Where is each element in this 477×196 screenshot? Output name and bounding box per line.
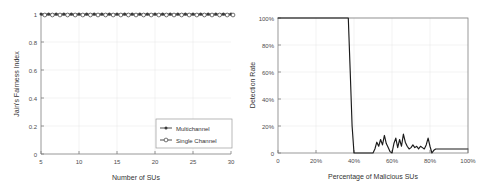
fairness-ytick-label-0: 0 <box>34 152 38 158</box>
detection-xtick-label-5: 100% <box>460 158 476 164</box>
open-circle-icon <box>164 138 168 142</box>
fairness-xlabel: Number of SUs <box>112 174 160 181</box>
detection-plot-panel: 100% 80% 60% 40% 20% 0 0 20% 40% 60% 80%… <box>240 0 477 196</box>
fairness-ytick-label-4: 0.8 <box>29 40 38 46</box>
detection-ytick-label-0: 0 <box>271 151 275 157</box>
fairness-x-ticks <box>41 151 231 154</box>
detection-ylabel: Detection Rate <box>249 62 256 108</box>
fairness-ylabel: Jain's Fairness Index <box>13 51 20 117</box>
detection-grid-horizontal <box>278 18 468 126</box>
fairness-ytick-label-5: 1 <box>34 12 38 18</box>
fairness-plot-svg: 1 0.8 0.6 0.4 0.2 0 5 10 15 20 25 30 Num… <box>0 0 240 196</box>
legend-box <box>156 119 232 148</box>
detection-ytick-label-2: 40% <box>262 97 275 103</box>
fairness-y-ticks <box>41 14 44 154</box>
detection-xtick-label-2: 40% <box>348 158 361 164</box>
fairness-xtick-label-1: 10 <box>76 159 83 165</box>
detection-y-ticks <box>278 18 281 153</box>
fairness-ytick-label-1: 0.2 <box>29 124 38 130</box>
detection-xlabel: Percentage of Malicious SUs <box>328 173 418 181</box>
legend-label-single-channel: Single Channel <box>176 138 217 144</box>
detection-ytick-label-5: 100% <box>259 16 275 22</box>
detection-axes-box <box>278 18 468 153</box>
fairness-xtick-label-0: 5 <box>39 159 43 165</box>
detection-grid-vertical <box>316 18 430 153</box>
detection-xtick-label-1: 20% <box>310 158 323 164</box>
series-line-detection-rate <box>278 18 468 153</box>
detection-ytick-label-1: 20% <box>262 124 275 130</box>
figure-container: 1 0.8 0.6 0.4 0.2 0 5 10 15 20 25 30 Num… <box>0 0 477 196</box>
detection-xtick-label-4: 80% <box>424 158 437 164</box>
fairness-ytick-label-2: 0.4 <box>29 96 38 102</box>
fairness-legend[interactable]: Multichannel Single Channel <box>156 119 232 148</box>
fairness-xtick-label-5: 30 <box>228 159 235 165</box>
detection-ytick-label-3: 60% <box>262 70 275 76</box>
detection-xtick-label-0: 0 <box>276 158 280 164</box>
detection-plot-svg: 100% 80% 60% 40% 20% 0 0 20% 40% 60% 80%… <box>240 0 477 196</box>
fairness-xtick-label-4: 25 <box>190 159 197 165</box>
detection-xtick-label-3: 60% <box>386 158 399 164</box>
fairness-grid-horizontal <box>41 14 231 126</box>
filled-circle-icon <box>165 127 168 130</box>
fairness-xtick-label-3: 20 <box>152 159 159 165</box>
legend-label-multichannel: Multichannel <box>176 126 210 132</box>
fairness-plot-panel: 1 0.8 0.6 0.4 0.2 0 5 10 15 20 25 30 Num… <box>0 0 240 196</box>
fairness-xtick-label-2: 15 <box>114 159 121 165</box>
detection-ytick-label-4: 80% <box>262 43 275 49</box>
fairness-ytick-label-3: 0.6 <box>29 68 38 74</box>
